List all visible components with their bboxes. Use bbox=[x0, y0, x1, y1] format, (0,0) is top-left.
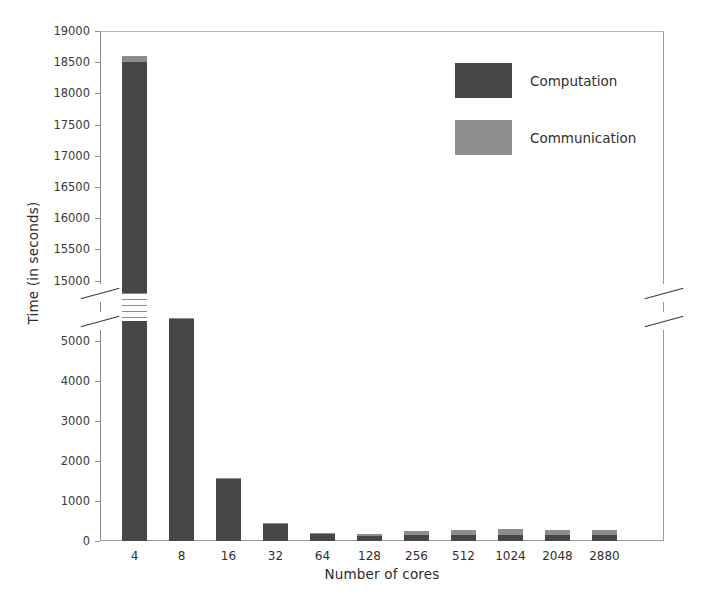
bar-column bbox=[310, 0, 335, 541]
bar-segment-computation bbox=[404, 535, 429, 541]
y-tick-label: 1000 bbox=[0, 494, 90, 508]
legend-swatch-communication bbox=[455, 120, 512, 155]
bar-segment-communication bbox=[357, 534, 382, 536]
bar-segment-communication bbox=[169, 318, 194, 319]
chart-legend: Computation Communication bbox=[455, 63, 636, 177]
y-tick-mark bbox=[95, 501, 100, 502]
y-tick-label: 17000 bbox=[0, 149, 90, 163]
y-tick-label: 4000 bbox=[0, 374, 90, 388]
y-tick-label: 17500 bbox=[0, 118, 90, 132]
legend-label-computation: Computation bbox=[530, 73, 617, 89]
legend-swatch-computation bbox=[455, 63, 512, 98]
bar-column bbox=[263, 0, 288, 541]
y-tick-label: 3000 bbox=[0, 414, 90, 428]
bar-segment-communication bbox=[310, 533, 335, 534]
x-tick-label: 2880 bbox=[575, 549, 635, 563]
bar-column bbox=[404, 0, 429, 541]
bar-segment-communication bbox=[216, 478, 241, 479]
bar-segment-communication bbox=[545, 530, 570, 536]
bar-column bbox=[122, 0, 147, 541]
wave-break-texture bbox=[122, 293, 147, 321]
y-tick-mark bbox=[95, 62, 100, 63]
bar-segment-computation bbox=[592, 535, 617, 541]
y-tick-mark bbox=[95, 281, 100, 282]
y-tick-mark bbox=[95, 381, 100, 382]
bar-segment-computation bbox=[310, 534, 335, 541]
bar-axis-break-gap bbox=[122, 293, 147, 321]
x-axis-label: Number of cores bbox=[100, 566, 664, 582]
bar-segment-communication bbox=[122, 56, 147, 62]
bar-segment-computation-upper bbox=[122, 62, 147, 293]
bar-segment-computation bbox=[545, 535, 570, 541]
bar-segment-communication bbox=[498, 529, 523, 535]
y-tick-label: 2000 bbox=[0, 454, 90, 468]
bar-segment-communication bbox=[404, 531, 429, 535]
bar-segment-communication bbox=[592, 530, 617, 536]
y-tick-label: 5000 bbox=[0, 334, 90, 348]
y-tick-label: 15500 bbox=[0, 242, 90, 256]
y-tick-label: 18500 bbox=[0, 55, 90, 69]
bar-segment-computation bbox=[216, 479, 241, 541]
chart-figure: Time (in seconds) 0100020003000400050001… bbox=[0, 0, 704, 599]
y-tick-label: 18000 bbox=[0, 86, 90, 100]
bar-segment-communication bbox=[263, 523, 288, 524]
bar-segment-communication bbox=[451, 530, 476, 535]
bar-column bbox=[169, 0, 194, 541]
y-tick-label: 16000 bbox=[0, 211, 90, 225]
y-tick-mark bbox=[95, 31, 100, 32]
y-tick-mark bbox=[95, 541, 100, 542]
bar-column bbox=[216, 0, 241, 541]
y-tick-mark bbox=[95, 125, 100, 126]
legend-label-communication: Communication bbox=[530, 130, 636, 146]
y-tick-mark bbox=[95, 218, 100, 219]
y-tick-label: 19000 bbox=[0, 24, 90, 38]
legend-item-computation: Computation bbox=[455, 63, 636, 98]
y-tick-mark bbox=[95, 187, 100, 188]
bar-column bbox=[357, 0, 382, 541]
y-tick-mark bbox=[95, 421, 100, 422]
y-tick-label: 0 bbox=[0, 534, 90, 548]
y-tick-mark bbox=[95, 156, 100, 157]
y-tick-mark bbox=[95, 249, 100, 250]
bar-segment-computation bbox=[169, 319, 194, 541]
y-axis-label: Time (in seconds) bbox=[25, 168, 41, 358]
bar-segment-computation bbox=[263, 523, 288, 541]
bar-segment-computation-lower bbox=[122, 321, 147, 541]
bar-segment-computation bbox=[357, 536, 382, 541]
y-tick-mark bbox=[95, 461, 100, 462]
legend-item-communication: Communication bbox=[455, 120, 636, 155]
y-tick-mark bbox=[95, 93, 100, 94]
bar-segment-computation bbox=[451, 535, 476, 541]
y-tick-label: 16500 bbox=[0, 180, 90, 194]
y-tick-label: 15000 bbox=[0, 274, 90, 288]
bar-segment-computation bbox=[498, 535, 523, 541]
y-tick-mark bbox=[95, 341, 100, 342]
